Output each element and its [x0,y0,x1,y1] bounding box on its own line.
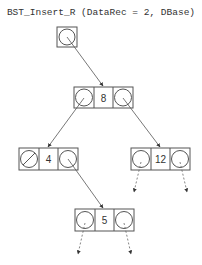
bst-diagram: 8 4 12 5 [0,0,202,265]
node-key-8: 8 [101,93,107,104]
node-key-5: 5 [102,215,108,226]
tree-node-8: 8 [48,87,160,147]
root-pointer [57,27,103,86]
tree-node-12: 12 [131,148,190,192]
tree-node-5: 5 [75,209,134,254]
node-key-12: 12 [155,154,167,165]
tree-node-4: 4 [19,148,103,208]
node-key-4: 4 [46,154,52,165]
